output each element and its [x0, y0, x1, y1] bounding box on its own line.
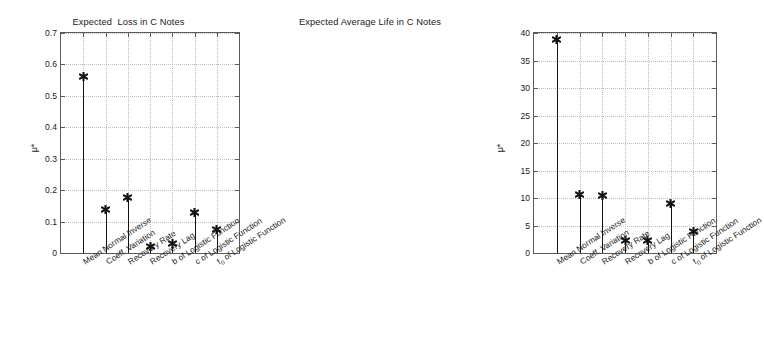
y-tick-label: 40: [520, 28, 530, 38]
y-tick-mark: [534, 33, 538, 34]
stem-line: [648, 241, 649, 253]
y-tick-mark: [712, 143, 716, 144]
stem-line: [217, 230, 218, 253]
y-tick-label: 35: [520, 56, 530, 66]
x-tick-mark: [671, 33, 672, 37]
stem-line: [557, 40, 558, 253]
y-tick-mark: [712, 88, 716, 89]
y-tick-mark: [235, 96, 239, 97]
chart-title-right: Expected Average Life in C Notes: [249, 17, 491, 27]
y-tick-label: 0.7: [45, 28, 57, 38]
x-tick-label: Coeff. Variation: [578, 258, 583, 266]
gridline-vertical: [693, 33, 694, 253]
x-tick-mark: [150, 33, 151, 37]
y-tick-label: 15: [520, 166, 530, 176]
y-tick-label: 25: [520, 111, 530, 121]
x-tick-label: Recovery Lag: [148, 258, 153, 266]
y-tick-mark: [534, 198, 538, 199]
x-tick-label: Mean Normal Inverse: [555, 258, 560, 266]
y-tick-label: 10: [520, 193, 530, 203]
x-tick-mark: [128, 33, 129, 37]
stem-line: [195, 212, 196, 253]
y-tick-mark: [61, 64, 65, 65]
y-tick-mark: [534, 253, 538, 254]
y-tick-mark: [534, 61, 538, 62]
gridline-vertical: [648, 33, 649, 253]
y-tick-mark: [712, 33, 716, 34]
y-tick-mark: [534, 226, 538, 227]
y-tick-label: 0.6: [45, 59, 57, 69]
y-tick-label: 20: [520, 138, 530, 148]
x-tick-mark: [172, 33, 173, 37]
stem-line: [602, 196, 603, 253]
plot-area-right: Mean Normal InverseCoeff. VariationRecov…: [533, 32, 717, 254]
y-tick-mark: [235, 222, 239, 223]
y-axis-label-right: μ*: [495, 138, 505, 158]
y-tick-mark: [712, 198, 716, 199]
y-tick-mark: [61, 159, 65, 160]
y-tick-mark: [534, 171, 538, 172]
x-tick-mark: [625, 33, 626, 37]
x-tick-label: Recovery Lag: [623, 258, 628, 266]
stem-line: [172, 243, 173, 253]
y-tick-label: 5: [525, 221, 530, 231]
stem-line: [625, 240, 626, 253]
x-tick-mark: [217, 33, 218, 37]
y-tick-mark: [712, 61, 716, 62]
stem-line: [106, 210, 107, 253]
stem-line: [580, 194, 581, 253]
y-tick-mark: [235, 159, 239, 160]
y-tick-label: 0.2: [45, 185, 57, 195]
y-tick-mark: [61, 96, 65, 97]
y-tick-label: 0: [525, 248, 530, 258]
x-tick-label: f0 of Logistic Function: [215, 258, 220, 266]
x-tick-label: c of Logistic Function: [193, 258, 198, 266]
y-tick-mark: [235, 33, 239, 34]
x-tick-label: b of Logistic Function: [170, 258, 175, 266]
x-tick-label: Recovery Rate: [600, 258, 605, 266]
y-tick-mark: [534, 88, 538, 89]
gridline-vertical: [217, 33, 218, 253]
x-tick-label: f0 of Logistic Function: [691, 258, 696, 266]
y-tick-mark: [534, 116, 538, 117]
x-tick-mark: [580, 33, 581, 37]
y-axis-label-left: μ*: [29, 138, 39, 158]
x-axis-labels-left: Mean Normal InverseCoeff. VariationRecov…: [61, 253, 239, 353]
y-tick-label: 0.5: [45, 91, 57, 101]
y-tick-label: 0.1: [45, 217, 57, 227]
x-tick-label: c of Logistic Function: [669, 258, 674, 266]
y-tick-label: 30: [520, 83, 530, 93]
stem-line: [693, 231, 694, 253]
y-tick-mark: [235, 190, 239, 191]
chart-panel-expected-average-life: Expected Average Life in C Notes μ* Mean…: [243, 0, 485, 356]
stem-line: [128, 197, 129, 253]
y-tick-mark: [61, 33, 65, 34]
x-tick-mark: [83, 33, 84, 37]
y-tick-mark: [235, 127, 239, 128]
chart-panel-expected-loss: Expected Loss in C Notes μ* Mean Normal …: [0, 0, 245, 356]
y-tick-mark: [61, 127, 65, 128]
y-tick-mark: [235, 253, 239, 254]
gridline-vertical: [172, 33, 173, 253]
x-tick-label: b of Logistic Function: [646, 258, 651, 266]
x-tick-mark: [195, 33, 196, 37]
gridline-vertical: [625, 33, 626, 253]
gridline-vertical: [150, 33, 151, 253]
y-tick-label: 0: [52, 248, 57, 258]
x-tick-mark: [648, 33, 649, 37]
y-tick-mark: [61, 253, 65, 254]
x-tick-label: Mean Normal Inverse: [81, 258, 86, 266]
y-tick-mark: [712, 116, 716, 117]
y-tick-label: 0.4: [45, 122, 57, 132]
y-tick-label: 0.3: [45, 154, 57, 164]
y-tick-mark: [712, 226, 716, 227]
x-tick-mark: [557, 33, 558, 37]
plot-area-left: Mean Normal InverseCoeff. VariationRecov…: [60, 32, 240, 254]
y-tick-mark: [712, 253, 716, 254]
y-tick-mark: [235, 64, 239, 65]
y-tick-mark: [61, 190, 65, 191]
x-tick-mark: [693, 33, 694, 37]
x-tick-mark: [602, 33, 603, 37]
x-tick-label: Recovery Rate: [126, 258, 131, 266]
